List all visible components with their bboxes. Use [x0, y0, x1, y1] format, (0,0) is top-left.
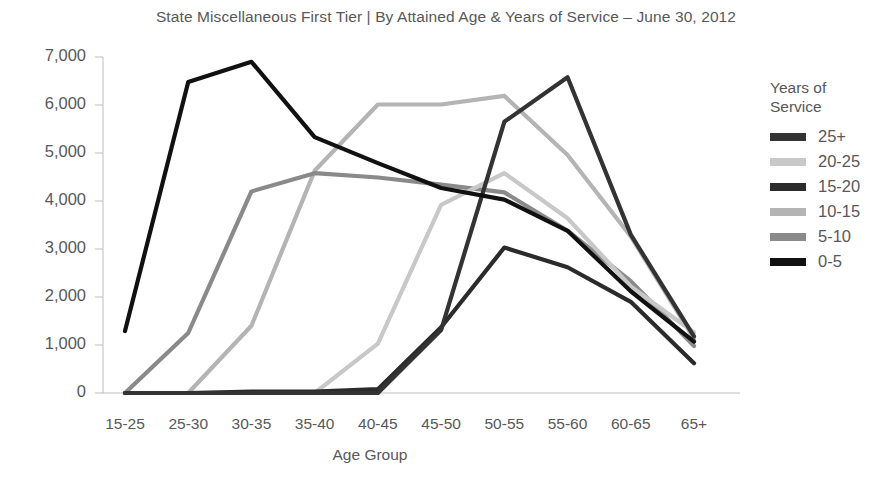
- legend-swatch-icon: [770, 233, 806, 241]
- legend-label: 25+: [818, 127, 846, 146]
- y-axis-tick-label: 5,000: [8, 142, 86, 161]
- x-axis-tick-label: 55-60: [533, 415, 603, 433]
- plot-area: 01,0002,0003,0004,0005,0006,0007,000 15-…: [0, 0, 892, 482]
- plot-svg: [0, 0, 892, 482]
- legend-swatch-icon: [770, 158, 806, 166]
- legend-swatch-icon: [770, 208, 806, 216]
- legend-label: 5-10: [818, 227, 851, 246]
- x-axis-tick-label: 45-50: [406, 415, 476, 433]
- y-axis-tick-label: 3,000: [8, 238, 86, 257]
- legend-title: Years of Service: [770, 78, 890, 116]
- legend-item[interactable]: 20-25: [770, 149, 890, 174]
- y-axis-tick-label: 2,000: [8, 286, 86, 305]
- series-line-25plus: [125, 77, 694, 393]
- legend-item[interactable]: 10-15: [770, 199, 890, 224]
- chart-container: State Miscellaneous First Tier | By Atta…: [0, 0, 892, 482]
- legend-item[interactable]: 5-10: [770, 224, 890, 249]
- x-axis-tick-label: 60-65: [596, 415, 666, 433]
- y-axis-tick-label: 4,000: [8, 190, 86, 209]
- x-axis-tick-label: 15-25: [90, 415, 160, 433]
- series-line-10-15: [125, 96, 694, 393]
- y-axis-tick-label: 0: [8, 382, 86, 401]
- x-axis-tick-label: 30-35: [216, 415, 286, 433]
- legend-label: 10-15: [818, 202, 860, 221]
- legend-swatch-icon: [770, 133, 806, 141]
- x-axis-tick-label: 40-45: [343, 415, 413, 433]
- legend-item[interactable]: 25+: [770, 124, 890, 149]
- legend: Years of Service 25+20-2515-2010-155-100…: [770, 78, 890, 274]
- x-axis-tick-label: 65+: [659, 415, 729, 433]
- y-axis-tick-label: 7,000: [8, 46, 86, 65]
- legend-items: 25+20-2515-2010-155-100-5: [770, 124, 890, 274]
- y-axis-tick-label: 1,000: [8, 334, 86, 353]
- series-lines: [125, 62, 694, 393]
- x-axis-title: Age Group: [0, 446, 740, 464]
- legend-swatch-icon: [770, 258, 806, 266]
- legend-label: 0-5: [818, 252, 842, 271]
- legend-label: 15-20: [818, 177, 860, 196]
- axis-lines: [95, 57, 740, 393]
- x-axis-tick-label: 25-30: [153, 415, 223, 433]
- x-axis-tick-label: 35-40: [280, 415, 350, 433]
- legend-item[interactable]: 15-20: [770, 174, 890, 199]
- y-axis-tick-label: 6,000: [8, 94, 86, 113]
- legend-label: 20-25: [818, 152, 860, 171]
- legend-swatch-icon: [770, 183, 806, 191]
- x-axis-tick-label: 50-55: [469, 415, 539, 433]
- legend-item[interactable]: 0-5: [770, 249, 890, 274]
